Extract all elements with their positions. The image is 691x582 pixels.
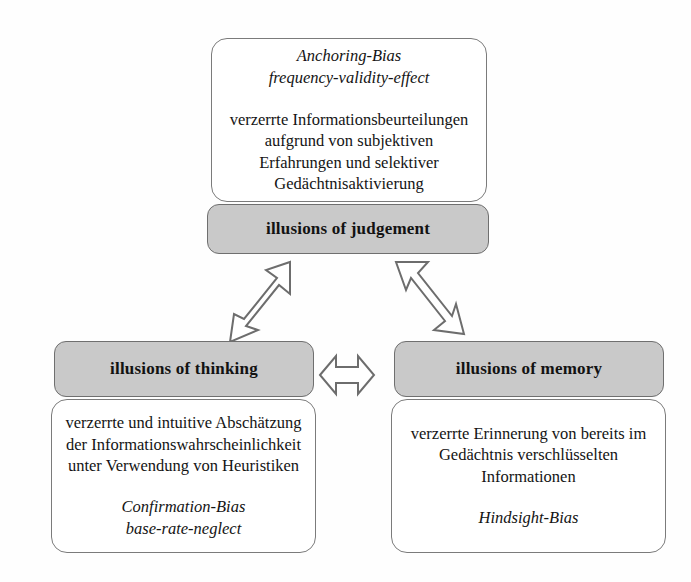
left-node-description-line-2: der Informationswahrscheinlichkeit (60, 434, 307, 455)
double-headed-horizontal-arrow-icon (318, 352, 376, 398)
right-node-description-line-3: Informationen (400, 466, 657, 487)
top-node-bias-line-1: Anchoring-Bias (220, 45, 478, 67)
top-node-description-line-1: verzerrte Informationsbeurteilungen (220, 109, 478, 130)
double-headed-diagonal-arrow-icon (388, 258, 470, 346)
node-illusions-of-thinking[interactable]: illusions of thinking (54, 341, 314, 397)
left-node-description-line-1: verzerrte und intuitive Abschätzung (60, 412, 307, 433)
double-headed-diagonal-arrow-icon (228, 258, 298, 346)
top-node-bias-line-2: frequency-validity-effect (220, 67, 478, 89)
top-node-header-label: illusions of judgement (266, 219, 430, 239)
top-node-detail-stack: Anchoring-Bias frequency-validity-effect… (212, 45, 486, 194)
left-node-bias-line-2: base-rate-neglect (60, 518, 307, 540)
right-node-detail-box: verzerrte Erinnerung von bereits im Gedä… (391, 399, 666, 553)
right-node-spacer (400, 487, 657, 507)
top-node-description-line-2: aufgrund von subjektiven (220, 130, 478, 151)
left-node-detail-box: verzerrte und intuitive Abschätzung der … (51, 399, 316, 553)
top-node-description-line-3: Erfahrungen und selektiver (220, 152, 478, 173)
right-node-header-label: illusions of memory (456, 359, 602, 379)
right-node-bias-line-1: Hindsight-Bias (400, 507, 657, 529)
node-illusions-of-judgement[interactable]: illusions of judgement (207, 204, 489, 254)
top-node-detail-box: Anchoring-Bias frequency-validity-effect… (211, 38, 487, 202)
node-illusions-of-memory[interactable]: illusions of memory (394, 341, 664, 397)
left-node-bias-line-1: Confirmation-Bias (60, 496, 307, 518)
left-node-header-label: illusions of thinking (110, 359, 258, 379)
left-node-spacer (60, 476, 307, 496)
left-node-description-line-3: unter Verwendung von Heuristiken (60, 455, 307, 476)
diagram-canvas: Anchoring-Bias frequency-validity-effect… (0, 0, 691, 582)
right-node-description-line-2: Gedächtnis verschlüsselten (400, 444, 657, 465)
top-node-spacer (220, 89, 478, 109)
left-node-detail-stack: verzerrte und intuitive Abschätzung der … (52, 412, 315, 540)
right-node-description-line-1: verzerrte Erinnerung von bereits im (400, 423, 657, 444)
right-node-detail-stack: verzerrte Erinnerung von bereits im Gedä… (392, 423, 665, 529)
top-node-description-line-4: Gedächtnisaktivierung (220, 173, 478, 194)
